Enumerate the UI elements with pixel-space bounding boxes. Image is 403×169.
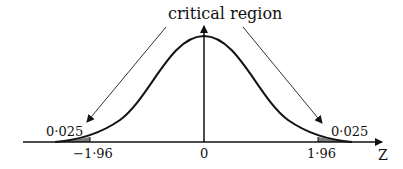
z-axis-label: Z (378, 148, 388, 162)
right-critical-value-label: 1·96 (307, 147, 336, 160)
critical-region-label: critical region (168, 6, 282, 22)
left-tail-area-label: 0·025 (46, 125, 83, 138)
center-value-label: 0 (200, 147, 208, 160)
left-critical-value-label: −1·96 (73, 147, 113, 160)
figure-canvas (0, 0, 403, 169)
right-pointer-arrow (243, 27, 322, 123)
right-tail-area-label: 0·025 (331, 125, 368, 138)
left-pointer-arrow (87, 27, 166, 122)
normal-distribution-figure: critical region 0·025 0·025 −1·96 0 1·96… (0, 0, 403, 169)
